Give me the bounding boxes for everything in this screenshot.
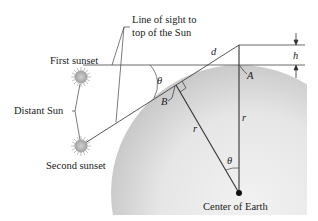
earth-shape — [111, 65, 318, 221]
B-label: B — [161, 96, 167, 107]
h-label: h — [293, 50, 298, 61]
d-label: d — [211, 46, 216, 57]
second-sunset-label: Second sunset — [46, 160, 106, 171]
distant-sun-leaders — [72, 84, 80, 140]
theta-label-center: θ — [227, 155, 232, 166]
line-of-sight-label-1: Line of sight to — [132, 14, 196, 25]
sun-icon — [71, 67, 91, 87]
theta-label-top: θ — [157, 75, 162, 86]
distant-sun-label: Distant Sun — [14, 105, 63, 116]
line-of-sight-label-2: top of the Sun — [132, 27, 191, 38]
center-of-earth-label: Center of Earth — [203, 201, 268, 212]
center-point-dot — [236, 190, 242, 196]
A-label: A — [247, 70, 253, 81]
r-label-right: r — [242, 112, 246, 123]
sun-icon — [71, 136, 91, 156]
r-label-left: r — [193, 123, 197, 134]
first-sunset-label: First sunset — [50, 55, 98, 66]
line-of-sight-leaders — [112, 27, 130, 122]
